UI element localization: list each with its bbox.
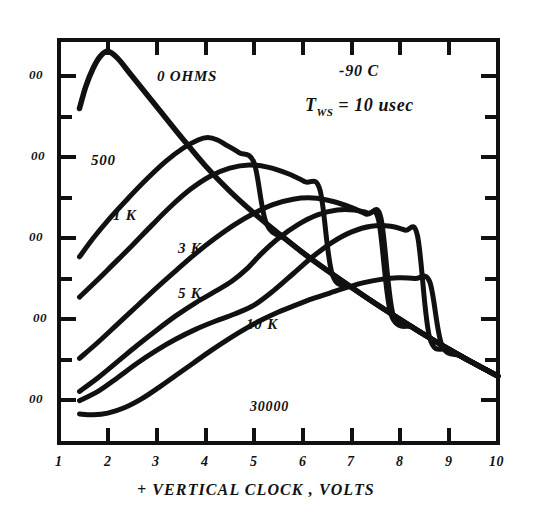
annotation-pulse-width: TWS = 10 usec	[305, 96, 414, 118]
curve-label-500: 500	[91, 153, 116, 168]
y-tick-label-2: 00	[31, 149, 45, 162]
y-axis-right-ticks	[481, 76, 498, 400]
x-tick-label-10: 10	[489, 455, 504, 469]
x-axis-top-ticks	[108, 40, 449, 55]
x-tick-label-7: 7	[347, 455, 355, 469]
curve-label-0-ohms: 0 OHMS	[157, 69, 217, 84]
x-tick-label-5: 5	[250, 455, 258, 469]
y-tick-label-4: 00	[33, 311, 47, 324]
annotation-temperature: -90 C	[339, 63, 379, 79]
y-axis-major-ticks	[59, 76, 76, 400]
x-axis-bottom-ticks	[108, 428, 449, 443]
x-tick-label-1: 1	[55, 455, 63, 469]
curve-label-5k: 5 K	[178, 286, 202, 301]
x-tick-label-3: 3	[152, 455, 160, 469]
y-tick-label-3: 00	[29, 230, 43, 243]
curve-label-1k: 1 K	[113, 208, 137, 223]
y-tick-label-5: 00	[29, 392, 43, 405]
curve-label-10k: 10 K	[246, 317, 278, 332]
annotation-pulse-symbol: T	[305, 95, 317, 115]
curve-label-30000: 30000	[250, 400, 289, 414]
annotation-pulse-value: = 10 usec	[333, 95, 414, 115]
figure-container: 00 00 00 00 00 1 2 3 4 5 6 7 8 9 10 + VE…	[0, 0, 533, 521]
x-tick-label-2: 2	[104, 455, 112, 469]
x-tick-label-9: 9	[445, 455, 453, 469]
curve-label-3k: 3 K	[178, 241, 202, 256]
plot-frame	[59, 40, 498, 443]
x-tick-label-6: 6	[299, 455, 307, 469]
y-tick-label-1: 00	[29, 68, 43, 81]
data-curves	[79, 51, 498, 415]
annotation-pulse-subscript: WS	[317, 106, 334, 118]
x-axis-title: + VERTICAL CLOCK , VOLTS	[137, 482, 375, 498]
x-tick-label-8: 8	[396, 455, 404, 469]
chart-canvas	[0, 0, 533, 521]
x-tick-label-4: 4	[201, 455, 209, 469]
